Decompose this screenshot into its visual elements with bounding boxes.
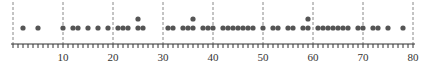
data-point xyxy=(290,25,295,30)
data-point xyxy=(370,25,375,30)
data-point xyxy=(300,25,305,30)
tick-label: 10 xyxy=(58,51,70,63)
data-point xyxy=(120,25,125,30)
data-point xyxy=(220,25,225,30)
data-point xyxy=(95,25,100,30)
tick-label: 70 xyxy=(358,51,370,63)
data-point xyxy=(140,25,145,30)
data-point xyxy=(115,25,120,30)
data-point xyxy=(335,25,340,30)
data-point xyxy=(375,25,380,30)
data-point xyxy=(285,25,290,30)
data-point xyxy=(325,25,330,30)
data-point xyxy=(320,25,325,30)
data-point xyxy=(180,25,185,30)
data-point xyxy=(185,25,190,30)
data-point xyxy=(70,25,75,30)
data-point xyxy=(170,25,175,30)
data-point xyxy=(235,25,240,30)
data-point xyxy=(85,25,90,30)
data-point xyxy=(340,25,345,30)
data-point xyxy=(60,25,65,30)
tick-label: 20 xyxy=(108,51,120,63)
data-point xyxy=(35,25,40,30)
data-point xyxy=(400,25,405,30)
data-point xyxy=(135,16,140,21)
data-point xyxy=(190,16,195,21)
data-point xyxy=(105,25,110,30)
data-point xyxy=(190,25,195,30)
data-point xyxy=(240,25,245,30)
data-point xyxy=(270,25,275,30)
tick-label: 40 xyxy=(208,51,220,63)
data-point xyxy=(135,25,140,30)
data-point xyxy=(205,25,210,30)
data-point xyxy=(75,25,80,30)
data-point xyxy=(230,25,235,30)
data-point xyxy=(260,25,265,30)
tick-label: 60 xyxy=(308,51,320,63)
data-point xyxy=(250,25,255,30)
data-point xyxy=(200,25,205,30)
tick-label: 50 xyxy=(258,51,270,63)
data-point xyxy=(360,25,365,30)
data-point xyxy=(305,16,310,21)
data-point xyxy=(20,25,25,30)
data-point xyxy=(125,25,130,30)
tick-label: 30 xyxy=(158,51,170,63)
dot-plot: 1020304050607080 xyxy=(0,0,424,65)
data-point xyxy=(305,25,310,30)
data-point xyxy=(275,25,280,30)
data-point xyxy=(355,25,360,30)
data-point xyxy=(385,25,390,30)
data-point xyxy=(210,25,215,30)
data-point xyxy=(225,25,230,30)
tick-label: 80 xyxy=(408,51,420,63)
data-point xyxy=(165,25,170,30)
data-point xyxy=(345,25,350,30)
data-point xyxy=(245,25,250,30)
data-point xyxy=(315,25,320,30)
data-point xyxy=(330,25,335,30)
